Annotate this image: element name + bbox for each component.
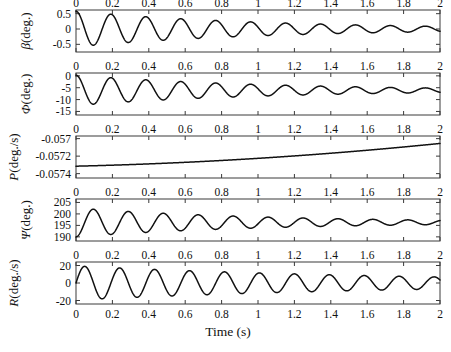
y-axis-title-psi: Ψ(deg.) [18,200,33,240]
xtick-label: 0.2 [105,60,120,72]
xtick-label: 1.6 [360,249,375,261]
xtick-label: 1.4 [324,60,339,72]
xtick-label: 1.4 [324,0,339,9]
xtick-label: 0 [73,249,79,261]
xtick-label: 1.6 [360,123,375,135]
ytick-label: -15 [56,105,72,117]
data-curve-R [76,266,440,298]
xtick-label: 0.4 [142,249,157,261]
xtick-label-bottom: 1.4 [324,308,339,320]
panel-R: 00.20.40.60.811.21.41.61.82200-20R(deg./… [6,249,443,308]
xtick-label: 2 [437,60,443,72]
xtick-label: 1.6 [360,186,375,198]
ytick-label: 0 [65,23,71,35]
ytick-label: -0.0574 [36,168,72,180]
xtick-label: 1.4 [324,249,339,261]
xtick-label: 1.8 [396,0,411,9]
ytick-label: -5 [61,82,71,94]
figure-container: 00.20.40.60.811.21.41.61.820.50-0.5β(deg… [0,0,451,352]
xtick-label: 0.2 [105,123,120,135]
panel-psi: 00.20.40.60.811.21.41.61.82205200195190Ψ… [18,186,443,243]
xtick-label-bottom: 1 [255,308,261,320]
xtick-label: 1.6 [360,0,375,9]
xtick-label: 0.8 [214,0,229,9]
data-curve-beta [76,11,440,45]
xtick-label: 2 [437,123,443,135]
xtick-label: 1.6 [360,60,375,72]
xtick-label: 1 [255,249,261,261]
xtick-label: 0.6 [178,249,193,261]
xtick-label: 2 [437,0,443,9]
xtick-label: 0.2 [105,0,120,9]
xtick-label: 2 [437,249,443,261]
xtick-label-bottom: 1.6 [360,308,375,320]
ytick-label: 0 [65,70,71,82]
xtick-label-bottom: 0.8 [214,308,229,320]
panel-frame-psi [76,199,440,241]
xtick-label-bottom: 0.2 [105,308,120,320]
xtick-label-bottom: 1.2 [287,308,302,320]
ytick-label: 195 [54,219,72,231]
multi-panel-plot: 00.20.40.60.811.21.41.61.820.50-0.5β(deg… [0,0,451,352]
xtick-label: 0.8 [214,186,229,198]
ytick-label: 0.5 [57,8,72,20]
xtick-label: 1 [255,60,261,72]
xtick-label: 1 [255,0,261,9]
ytick-label: 200 [54,208,72,220]
xtick-label: 0.8 [214,123,229,135]
xtick-label: 0 [73,0,79,9]
xtick-label: 0.2 [105,249,120,261]
xtick-label-bottom: 2 [437,308,443,320]
xtick-label: 1.8 [396,186,411,198]
ytick-label: -0.5 [53,38,71,50]
xtick-label: 1.2 [287,186,302,198]
xtick-label-bottom: 1.8 [396,308,411,320]
panel-frame-beta [76,10,440,52]
panel-P: 00.20.40.60.811.21.41.61.82-0.057-0.0572… [6,123,443,182]
xtick-label: 0 [73,60,79,72]
xtick-label: 1.8 [396,249,411,261]
xtick-label: 0.4 [142,186,157,198]
xtick-label: 2 [437,186,443,198]
ytick-label: -10 [56,94,72,106]
panel-frame-phi [76,73,440,115]
xtick-label: 1.2 [287,123,302,135]
xtick-label: 0.2 [105,186,120,198]
panel-frame-R [76,262,440,304]
xtick-label: 0.4 [142,0,157,9]
xtick-label: 1.2 [287,0,302,9]
xtick-label: 1.4 [324,123,339,135]
panel-phi: 00.20.40.60.811.21.41.61.820-5-10-15Φ(de… [18,60,443,117]
xtick-label: 0.6 [178,0,193,9]
data-curve-phi [76,75,440,104]
xtick-label: 1.2 [287,60,302,72]
xtick-label-bottom: 0.4 [142,308,157,320]
xtick-label: 1 [255,123,261,135]
xtick-label: 0 [73,186,79,198]
panel-frame-P [76,136,440,178]
xtick-label: 1 [255,186,261,198]
data-curve-psi [76,209,440,237]
xtick-label: 0.6 [178,60,193,72]
y-axis-title-phi: Φ(deg.) [18,74,33,115]
xtick-label: 0.8 [214,60,229,72]
ytick-label: 0 [65,277,71,289]
xtick-label: 0.4 [142,60,157,72]
ytick-label: -20 [56,295,72,307]
xtick-label-bottom: 0 [73,308,79,320]
ytick-label: 205 [54,196,72,208]
ytick-label: -0.0572 [36,150,72,162]
y-axis-title-P: P(deg./s) [6,133,21,181]
y-axis-title-R: R(deg./s) [6,259,21,307]
x-axis-label: Time (s) [205,324,251,339]
xtick-label: 0.4 [142,123,157,135]
data-curve-P [76,143,440,166]
xtick-label: 0 [73,123,79,135]
xtick-label: 0.6 [178,123,193,135]
x-axis-bottom: 00.20.40.60.811.21.41.61.82Time (s) [73,308,443,339]
xtick-label-bottom: 0.6 [178,308,193,320]
xtick-label: 1.4 [324,186,339,198]
ytick-label: 190 [54,231,72,243]
xtick-label: 1.8 [396,60,411,72]
xtick-label: 1.2 [287,249,302,261]
